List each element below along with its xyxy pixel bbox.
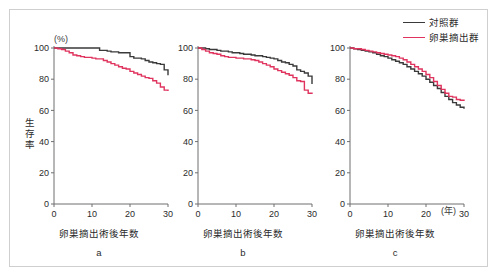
svg-text:80: 80 (39, 74, 49, 84)
svg-text:40: 40 (39, 137, 49, 147)
x-axis-title-c: 卵巣摘出術後年数 (320, 226, 470, 240)
svg-text:0: 0 (347, 209, 352, 219)
svg-text:60: 60 (183, 106, 193, 116)
svg-text:0: 0 (51, 209, 56, 219)
svg-text:10: 10 (87, 209, 97, 219)
x-axis-title-a: 卵巣摘出術後年数 (24, 226, 174, 240)
panel-letter-a: a (24, 247, 174, 258)
svg-text:30: 30 (307, 209, 317, 219)
svg-text:20: 20 (183, 168, 193, 178)
svg-text:30: 30 (459, 209, 469, 219)
plot-area-b: 0204060801000102030 (168, 38, 318, 228)
svg-text:60: 60 (39, 106, 49, 116)
svg-text:40: 40 (183, 137, 193, 147)
plot-area-c: 0204060801000102030 (320, 38, 470, 228)
panel-b: 0204060801000102030 卵巣摘出術後年数 b (168, 38, 318, 260)
panel-letter-c: c (320, 247, 470, 258)
svg-text:100: 100 (178, 43, 193, 53)
svg-text:10: 10 (383, 209, 393, 219)
svg-text:100: 100 (330, 43, 345, 53)
svg-text:60: 60 (335, 106, 345, 116)
svg-text:0: 0 (188, 199, 193, 209)
svg-text:20: 20 (269, 209, 279, 219)
panel-a: (%) 0204060801000102030 卵巣摘出術後年数 a (24, 38, 174, 260)
legend-label-control: 対照群 (429, 16, 459, 29)
legend-swatch-control (403, 22, 425, 23)
svg-text:20: 20 (421, 209, 431, 219)
figure-frame: 対照群 卵巣摘出群 生存率 (%) 0204060801000102030 卵巣… (9, 9, 488, 267)
x-axis-title-b: 卵巣摘出術後年数 (168, 226, 318, 240)
svg-text:0: 0 (195, 209, 200, 219)
x-unit-label-c: (年) (441, 204, 456, 217)
svg-text:40: 40 (335, 137, 345, 147)
svg-text:20: 20 (125, 209, 135, 219)
svg-text:80: 80 (335, 74, 345, 84)
svg-text:0: 0 (44, 199, 49, 209)
svg-text:20: 20 (335, 168, 345, 178)
panel-c: 0204060801000102030 (年) 卵巣摘出術後年数 c (320, 38, 470, 260)
svg-text:0: 0 (340, 199, 345, 209)
svg-text:20: 20 (39, 168, 49, 178)
svg-text:80: 80 (183, 74, 193, 84)
plot-area-a: 0204060801000102030 (24, 38, 174, 228)
legend-entry-control: 対照群 (403, 16, 459, 29)
svg-text:100: 100 (34, 43, 49, 53)
svg-text:10: 10 (231, 209, 241, 219)
panel-letter-b: b (168, 247, 318, 258)
